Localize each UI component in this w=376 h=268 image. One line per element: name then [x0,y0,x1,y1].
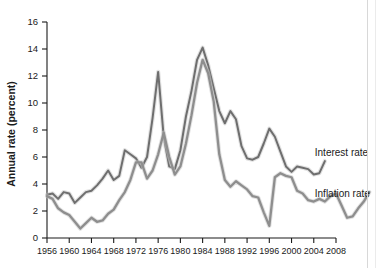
y-tick-label: 0 [33,232,38,243]
series-inline-labels: Interest rateInflation rate [315,147,370,199]
x-tick-label: 1984 [193,246,213,256]
x-tick-label: 2008 [326,246,346,256]
y-tick-label: 10 [27,97,38,108]
y-tick-label: 12 [27,70,38,81]
series-lines [47,48,369,229]
x-tick-label: 1980 [170,246,190,256]
chart-container: Annual rate (percent) 0246810121416 1956… [0,0,376,268]
series-line-halo-interest-rate [47,48,325,203]
y-tick-label: 8 [33,124,38,135]
y-tick-label: 14 [27,43,38,54]
y-tick-label: 16 [27,16,38,27]
x-axis-ticks: 1956196019641968197219761980198419881992… [37,238,346,256]
y-axis-title-text: Annual rate (percent) [5,81,17,187]
x-tick-label: 1976 [148,246,168,256]
scan-artifact-line [367,0,368,268]
x-tick-label: 1988 [215,246,235,256]
interest-rate-series-label: Interest rate [315,147,369,158]
x-tick-label: 1956 [37,246,57,256]
x-tick-label: 1960 [59,246,79,256]
y-tick-label: 4 [33,178,38,189]
x-tick-label: 2000 [282,246,302,256]
x-tick-label: 1996 [259,246,279,256]
line-chart: Annual rate (percent) 0246810121416 1956… [0,0,376,268]
x-tick-label: 2004 [304,246,324,256]
y-axis-title: Annual rate (percent) [5,81,17,187]
x-tick-label: 1968 [104,246,124,256]
y-tick-label: 6 [33,151,38,162]
x-tick-label: 1964 [81,246,101,256]
y-tick-label: 2 [33,205,38,216]
x-tick-label: 1992 [237,246,257,256]
inflation-rate-series-label: Inflation rate [315,188,370,199]
series-line-halo-inflation-rate [47,60,369,229]
series-line-inflation-rate [47,60,369,229]
x-tick-label: 1972 [126,246,146,256]
y-axis-ticks: 0246810121416 [27,16,47,243]
